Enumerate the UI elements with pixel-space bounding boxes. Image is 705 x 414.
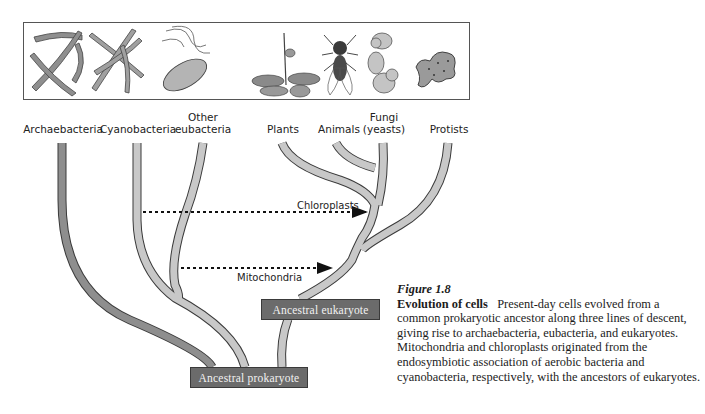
ancestral-prokaryote-node: Ancestral prokaryote [190,367,308,388]
chloroplasts-label: Chloroplasts [297,200,359,211]
figure-caption: Figure 1.8 Evolution of cells Present-da… [397,282,702,384]
figure-title: Evolution of cells [397,297,488,311]
mitochondria-label: Mitochondria [237,272,302,283]
figure-number: Figure 1.8 [397,282,702,297]
ancestral-eukaryote-node: Ancestral eukaryote [261,299,380,320]
